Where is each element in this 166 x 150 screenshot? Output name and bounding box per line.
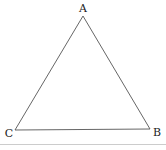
triangle-diagram: A B C — [0, 0, 166, 150]
vertex-label-a: A — [78, 2, 88, 15]
triangle-abc — [15, 16, 150, 130]
vertex-label-b: B — [153, 126, 161, 139]
vertex-label-c: C — [5, 127, 13, 140]
